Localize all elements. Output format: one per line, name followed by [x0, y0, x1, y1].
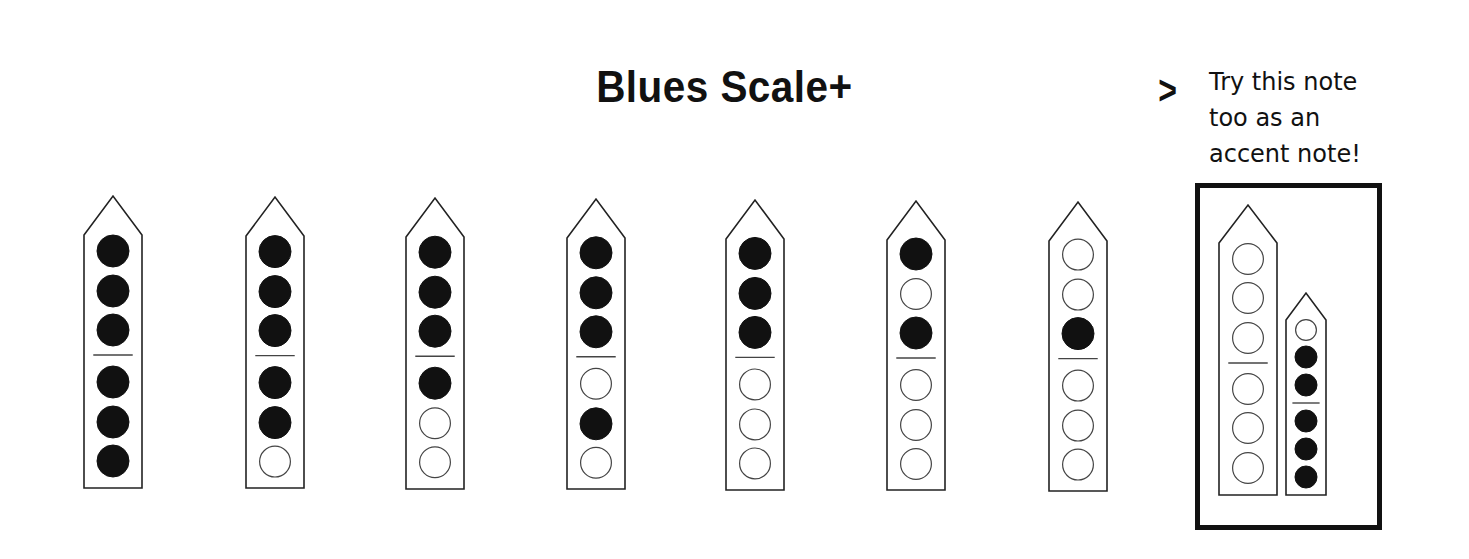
- open-hole: [1296, 320, 1317, 341]
- closed-hole: [97, 406, 129, 438]
- open-hole: [260, 446, 291, 477]
- closed-hole: [1295, 438, 1317, 460]
- closed-hole: [419, 236, 451, 268]
- fingering-chart-4: [567, 199, 625, 489]
- closed-hole: [97, 314, 129, 346]
- open-hole: [1063, 279, 1094, 310]
- closed-hole: [1062, 318, 1094, 350]
- fingering-chart-6: [887, 201, 945, 490]
- closed-hole: [97, 445, 129, 477]
- open-hole: [1233, 453, 1264, 484]
- open-hole: [1233, 283, 1264, 314]
- open-hole: [1233, 413, 1264, 444]
- closed-hole: [259, 367, 291, 399]
- closed-hole: [580, 277, 612, 309]
- fingering-chart-1: [84, 196, 142, 488]
- open-hole: [901, 370, 932, 401]
- accent-note-charts: [1219, 205, 1326, 495]
- open-hole: [1063, 410, 1094, 441]
- open-hole: [901, 449, 932, 480]
- open-hole: [581, 447, 612, 478]
- open-hole: [420, 408, 451, 439]
- closed-hole: [739, 237, 771, 269]
- closed-hole: [259, 276, 291, 308]
- closed-hole: [259, 236, 291, 268]
- closed-hole: [739, 316, 771, 348]
- open-hole: [1233, 374, 1264, 405]
- open-hole: [1063, 239, 1094, 270]
- open-hole: [740, 409, 771, 440]
- open-hole: [740, 369, 771, 400]
- open-hole: [1233, 244, 1264, 275]
- closed-hole: [1295, 466, 1317, 488]
- open-hole: [901, 279, 932, 310]
- closed-hole: [1295, 410, 1317, 432]
- closed-hole: [580, 237, 612, 269]
- closed-hole: [580, 408, 612, 440]
- closed-hole: [259, 407, 291, 439]
- closed-hole: [900, 238, 932, 270]
- fingering-diagram: [0, 0, 1469, 559]
- closed-hole: [97, 235, 129, 267]
- open-hole: [1233, 323, 1264, 354]
- accent-chart-main: [1219, 205, 1277, 495]
- fingering-chart-3: [406, 198, 464, 489]
- closed-hole: [419, 276, 451, 308]
- closed-hole: [97, 275, 129, 307]
- closed-hole: [739, 277, 771, 309]
- fingering-chart-2: [246, 197, 304, 488]
- open-hole: [420, 447, 451, 478]
- closed-hole: [97, 366, 129, 398]
- accent-chart-small: [1286, 293, 1326, 495]
- closed-hole: [419, 367, 451, 399]
- open-hole: [581, 368, 612, 399]
- open-hole: [901, 410, 932, 441]
- closed-hole: [580, 316, 612, 348]
- closed-hole: [1295, 374, 1317, 396]
- fingering-chart-5: [726, 200, 784, 490]
- closed-hole: [419, 315, 451, 347]
- fingering-chart-7: [1049, 202, 1107, 491]
- closed-hole: [259, 315, 291, 347]
- closed-hole: [1295, 346, 1317, 368]
- fingering-charts: [84, 196, 1107, 491]
- open-hole: [1063, 449, 1094, 480]
- open-hole: [740, 448, 771, 479]
- closed-hole: [900, 317, 932, 349]
- open-hole: [1063, 370, 1094, 401]
